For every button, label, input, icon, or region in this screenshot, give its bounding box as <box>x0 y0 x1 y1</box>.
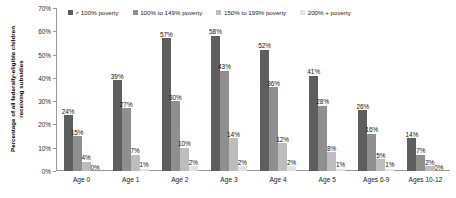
bar-slot: 27% <box>122 8 131 171</box>
bar-slot: 52% <box>260 8 269 171</box>
legend-item[interactable]: 200% + poverty <box>300 9 351 16</box>
bar-group: 39%27%7%1% <box>106 8 155 171</box>
legend-label: 200% + poverty <box>308 9 351 16</box>
legend-label: 100% to 149% poverty <box>140 9 202 16</box>
bar[interactable] <box>238 166 247 171</box>
y-axis-tick <box>53 148 56 149</box>
bar-group-bars: 58%43%14%2% <box>204 8 253 171</box>
bar[interactable] <box>220 71 229 171</box>
bar[interactable] <box>336 169 345 171</box>
bar-slot: 2% <box>238 8 247 171</box>
bar[interactable] <box>189 166 198 171</box>
bar-slot: 1% <box>140 8 149 171</box>
bar-group-bars: 39%27%7%1% <box>106 8 155 171</box>
y-axis-tick <box>53 124 56 125</box>
y-axis-tick <box>53 8 56 9</box>
bar-slot: 28% <box>318 8 327 171</box>
legend-swatch-icon <box>300 10 305 15</box>
bar-group: 41%28%8%1% <box>303 8 352 171</box>
bar[interactable] <box>180 148 189 171</box>
bar[interactable] <box>122 108 131 171</box>
bar-slot: 2% <box>189 8 198 171</box>
bar[interactable] <box>113 80 122 171</box>
x-axis-category-label: Age 2 <box>155 176 204 183</box>
bar[interactable] <box>309 76 318 171</box>
bar[interactable] <box>416 155 425 171</box>
y-axis-title: Percentage of all federally-eligible chi… <box>6 0 28 178</box>
bar[interactable] <box>260 50 269 171</box>
bar[interactable] <box>376 159 385 171</box>
bar-group: 24%15%4%0% <box>57 8 106 171</box>
bar[interactable] <box>131 155 140 171</box>
legend-item[interactable]: < 100% poverty <box>68 9 119 16</box>
bar[interactable] <box>318 106 327 171</box>
bar[interactable] <box>287 166 296 171</box>
bar[interactable] <box>385 169 394 171</box>
bar[interactable] <box>162 38 171 171</box>
bar[interactable] <box>407 138 416 171</box>
x-axis-category-label: Age 5 <box>303 176 352 183</box>
y-axis-tick <box>53 78 56 79</box>
y-axis-tick-label: 70% <box>38 5 51 12</box>
legend-swatch-icon <box>216 10 221 15</box>
bar-slot: 14% <box>229 8 238 171</box>
bar-value-label: 1% <box>385 161 394 168</box>
bar[interactable] <box>64 115 73 171</box>
bar-slot: 2% <box>287 8 296 171</box>
bar-value-label: 2% <box>238 159 247 166</box>
bar[interactable] <box>140 169 149 171</box>
bar-slot: 16% <box>367 8 376 171</box>
bar-slot: 5% <box>376 8 385 171</box>
bar-value-label: 8% <box>327 145 336 152</box>
y-axis-tick-label: 30% <box>38 98 51 105</box>
x-axis-category-label: Age 0 <box>57 176 106 183</box>
bar[interactable] <box>269 87 278 171</box>
bar-slot: 7% <box>416 8 425 171</box>
bar-slot: 1% <box>336 8 345 171</box>
bar-group-bars: 52%36%12%2% <box>254 8 303 171</box>
bar-slot: 57% <box>162 8 171 171</box>
y-axis-tick <box>53 101 56 102</box>
legend-item[interactable]: 150% to 199% poverty <box>216 9 286 16</box>
bar-groups: 24%15%4%0%39%27%7%1%57%30%10%2%58%43%14%… <box>57 8 450 171</box>
bar-slot: 0% <box>434 8 443 171</box>
bar-group: 26%16%5%1% <box>352 8 401 171</box>
legend-label: 150% to 199% poverty <box>224 9 286 16</box>
y-axis-tick-label: 60% <box>38 28 51 35</box>
bar-value-label: 5% <box>376 152 385 159</box>
bar-value-label: 1% <box>336 161 345 168</box>
bar[interactable] <box>82 162 91 171</box>
bar-value-label: 0% <box>434 164 443 171</box>
bar[interactable] <box>171 101 180 171</box>
bar-group-bars: 14%7%2%0% <box>401 8 450 171</box>
bar-slot: 15% <box>73 8 82 171</box>
chart-legend: < 100% poverty100% to 149% poverty150% t… <box>68 9 351 16</box>
bar-value-label: 2% <box>189 159 198 166</box>
bar-slot: 39% <box>113 8 122 171</box>
bar-group: 58%43%14%2% <box>204 8 253 171</box>
bar[interactable] <box>211 36 220 171</box>
bar-value-label: 4% <box>81 154 90 161</box>
bar[interactable] <box>327 152 336 171</box>
legend-item[interactable]: 100% to 149% poverty <box>133 9 203 16</box>
y-axis-tick-label: 0% <box>42 168 51 175</box>
bar[interactable] <box>425 166 434 171</box>
bar[interactable] <box>229 138 238 171</box>
bar[interactable] <box>367 134 376 171</box>
bar-slot: 8% <box>327 8 336 171</box>
bar-slot: 26% <box>358 8 367 171</box>
y-axis-title-line-1: Percentage of all federally-eligible chi… <box>9 26 17 152</box>
bar-value-label: 0% <box>90 164 99 171</box>
y-axis-tick <box>53 31 56 32</box>
bar-slot: 12% <box>278 8 287 171</box>
bar[interactable] <box>278 143 287 171</box>
x-axis-category-label: Ages 10-12 <box>401 176 450 183</box>
bar[interactable] <box>73 136 82 171</box>
y-axis-tick-label: 40% <box>38 74 51 81</box>
bar[interactable] <box>358 110 367 171</box>
bar-group: 14%7%2%0% <box>401 8 450 171</box>
legend-swatch-icon <box>133 10 138 15</box>
y-axis-tick-label: 50% <box>38 51 51 58</box>
bar-group-bars: 24%15%4%0% <box>57 8 106 171</box>
bar-group-bars: 57%30%10%2% <box>155 8 204 171</box>
